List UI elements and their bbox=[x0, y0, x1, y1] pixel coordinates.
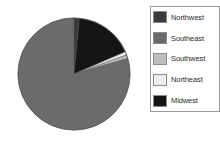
legend-swatch-southwest bbox=[153, 53, 167, 65]
pie-svg bbox=[0, 0, 148, 146]
legend-label-southwest: Southwest bbox=[171, 54, 205, 63]
legend-swatch-midwest bbox=[153, 95, 167, 107]
pie-slice-group bbox=[18, 18, 130, 130]
pie-chart-figure: Northwest Southeast Southwest Northeast … bbox=[0, 0, 220, 146]
legend-swatch-southeast bbox=[153, 32, 167, 44]
legend-swatch-northwest bbox=[153, 11, 167, 23]
chart-legend: Northwest Southeast Southwest Northeast … bbox=[150, 6, 220, 112]
legend-item-northeast[interactable]: Northeast bbox=[151, 69, 219, 90]
legend-label-northeast: Northeast bbox=[171, 75, 203, 84]
legend-item-northwest[interactable]: Northwest bbox=[151, 7, 219, 28]
legend-item-southwest[interactable]: Southwest bbox=[151, 49, 219, 70]
legend-item-southeast[interactable]: Southeast bbox=[151, 28, 219, 49]
pie-plot-area bbox=[0, 0, 148, 146]
legend-label-northwest: Northwest bbox=[171, 13, 204, 22]
legend-swatch-northeast bbox=[153, 74, 167, 86]
legend-item-midwest[interactable]: Midwest bbox=[151, 90, 219, 111]
legend-label-midwest: Midwest bbox=[171, 96, 198, 105]
legend-label-southeast: Southeast bbox=[171, 34, 204, 43]
